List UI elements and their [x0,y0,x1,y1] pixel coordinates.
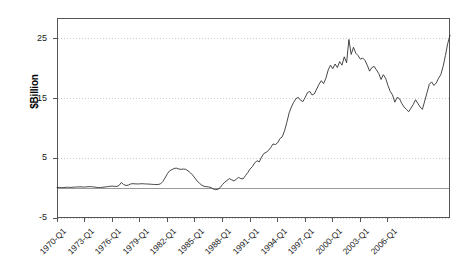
chart-svg [0,0,473,276]
gridlines [58,39,449,218]
chart-figure: $Billion -551525 1970-Q11973-Q11976-Q119… [0,0,473,276]
y-tick-label: 15 [21,94,47,103]
y-tick-label: 5 [21,153,47,162]
y-tick-label: 25 [21,34,47,43]
y-tick-label: -5 [21,213,47,222]
data-series-line [57,35,450,189]
